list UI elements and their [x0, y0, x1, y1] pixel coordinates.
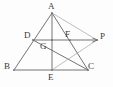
- point-B: [13, 69, 15, 71]
- vertex-label-A: A: [48, 2, 55, 11]
- vertex-label-P: P: [100, 32, 105, 41]
- segment-AC: [52, 13, 88, 70]
- point-G: [51, 39, 53, 41]
- segment-AP: [52, 13, 97, 40]
- vertex-label-B: B: [4, 62, 10, 71]
- geometry-figure: ADGFPBEC: [0, 0, 113, 87]
- vertex-label-G: G: [40, 42, 47, 51]
- point-D: [32, 39, 34, 41]
- segment-layer: [14, 13, 97, 70]
- vertex-label-D: D: [24, 31, 31, 40]
- point-layer: [13, 12, 98, 71]
- point-P: [96, 39, 98, 41]
- point-F: [69, 39, 71, 41]
- vertex-label-E: E: [48, 73, 54, 82]
- geometry-canvas: [0, 0, 113, 87]
- vertex-label-F: F: [65, 30, 70, 39]
- vertex-label-C: C: [88, 62, 94, 71]
- point-E: [51, 69, 53, 71]
- point-A: [51, 12, 53, 14]
